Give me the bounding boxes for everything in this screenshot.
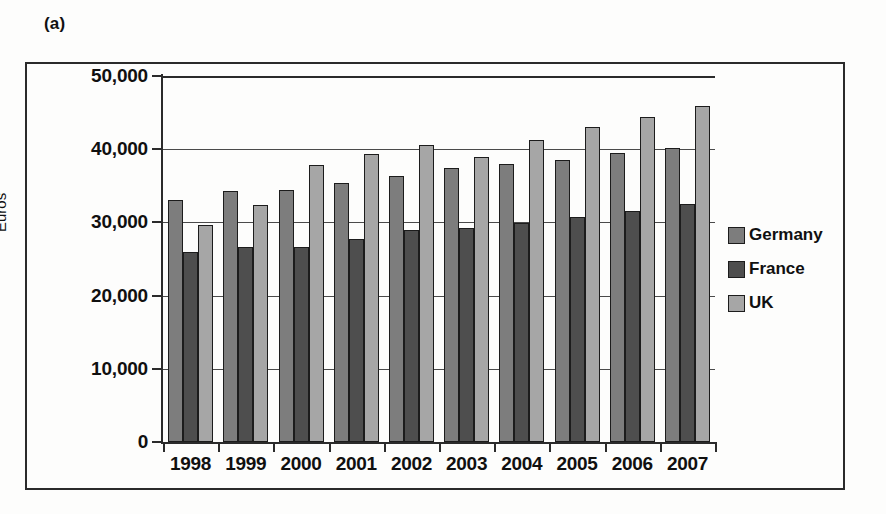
x-tick-mark [439,442,441,452]
bar-germany-2007[interactable] [665,148,680,442]
y-tick-mark [152,441,161,443]
y-tick-mark [152,221,161,223]
bar-group-2001 [329,76,384,442]
x-tick-mark [218,442,220,452]
bar-germany-2001[interactable] [334,183,349,442]
x-axis-tick-label-2003: 2003 [439,453,494,475]
x-tick-mark [329,442,331,452]
bar-group-2007 [660,76,715,442]
bar-france-1999[interactable] [238,247,253,442]
bar-group-2004 [494,76,549,442]
bar-germany-2004[interactable] [499,164,514,442]
x-axis-tick-label-2007: 2007 [660,453,715,475]
bar-uk-1999[interactable] [253,205,268,442]
x-axis-labels: 1998199920002001200220032004200520062007 [163,453,715,475]
y-tick-mark [152,295,161,297]
y-axis-title: Euros [0,193,9,232]
y-axis-tick-label: 30,000 [30,211,148,233]
bar-france-2000[interactable] [294,247,309,442]
bar-germany-2003[interactable] [444,168,459,442]
bar-uk-2001[interactable] [364,154,379,442]
bar-uk-2003[interactable] [474,157,489,442]
bar-germany-1998[interactable] [168,200,183,442]
bar-groups [163,76,715,442]
bar-france-2007[interactable] [680,204,695,442]
y-axis-tick-label: 10,000 [30,358,148,380]
bar-france-2004[interactable] [514,223,529,442]
x-axis-tick-label-2006: 2006 [605,453,660,475]
y-axis-tick-label: 20,000 [30,285,148,307]
bar-group-1998 [163,76,218,442]
x-axis-tick-label-2002: 2002 [384,453,439,475]
bar-germany-2006[interactable] [610,153,625,442]
bar-group-2000 [273,76,328,442]
x-tick-mark [273,442,275,452]
bar-france-1998[interactable] [183,252,198,442]
bar-group-2003 [439,76,494,442]
chart-legend: GermanyFranceUK [728,218,868,320]
bar-germany-1999[interactable] [223,191,238,442]
legend-label-france: France [749,259,805,279]
x-tick-mark [715,442,717,452]
x-tick-mark [660,442,662,452]
x-axis-tick-label-1998: 1998 [163,453,218,475]
legend-swatch-france [728,261,745,278]
y-axis-tick-label: 40,000 [30,138,148,160]
x-axis-tick-label-2001: 2001 [329,453,384,475]
bar-group-2002 [384,76,439,442]
y-tick-mark [152,148,161,150]
x-axis-tick-label-2005: 2005 [549,453,604,475]
x-tick-mark [384,442,386,452]
x-tick-mark [494,442,496,452]
legend-label-germany: Germany [749,225,823,245]
x-axis-tick-label-2000: 2000 [273,453,328,475]
bar-group-2006 [605,76,660,442]
legend-item-france[interactable]: France [728,252,868,286]
x-axis-tick-label-1999: 1999 [218,453,273,475]
bar-uk-2005[interactable] [585,127,600,442]
bar-france-2005[interactable] [570,217,585,442]
bar-uk-2006[interactable] [640,117,655,442]
bar-france-2002[interactable] [404,230,419,442]
y-axis-tick-label: 50,000 [30,65,148,87]
bar-germany-2000[interactable] [279,190,294,442]
bar-group-2005 [549,76,604,442]
legend-item-uk[interactable]: UK [728,286,868,320]
legend-swatch-uk [728,295,745,312]
x-tick-mark [549,442,551,452]
bar-uk-2002[interactable] [419,145,434,442]
y-tick-mark [152,368,161,370]
y-axis-tick-label: 0 [30,431,148,453]
bar-france-2001[interactable] [349,239,364,442]
x-tick-mark [605,442,607,452]
y-axis-labels: 50,00040,00030,00020,00010,0000 [26,0,148,514]
bar-germany-2005[interactable] [555,160,570,442]
y-tick-mark [152,75,161,77]
bar-uk-2007[interactable] [695,106,710,442]
bar-group-1999 [218,76,273,442]
bar-france-2006[interactable] [625,211,640,442]
legend-swatch-germany [728,227,745,244]
x-axis-tick-label-2004: 2004 [494,453,549,475]
bar-uk-1998[interactable] [198,225,213,442]
legend-label-uk: UK [749,293,774,313]
bar-uk-2000[interactable] [309,165,324,442]
x-tick-mark [163,442,165,452]
x-axis: 1998199920002001200220032004200520062007 [163,442,715,488]
bar-germany-2002[interactable] [389,176,404,442]
bar-uk-2004[interactable] [529,140,544,442]
legend-item-germany[interactable]: Germany [728,218,868,252]
bar-france-2003[interactable] [459,228,474,442]
